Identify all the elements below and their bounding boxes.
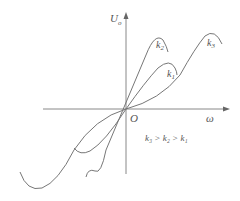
- x-axis-arrow-icon: [223, 107, 230, 112]
- characteristic-diagram: Uo ω O k2 k1 k3 k₃ > k₂ > k₁: [0, 0, 240, 201]
- x-axis-label: ω: [206, 112, 214, 124]
- relation-text: k₃ > k₂ > k₁: [145, 133, 188, 143]
- y-axis-arrow-icon: [124, 12, 129, 19]
- origin-label: O: [130, 112, 138, 124]
- y-axis-label: Uo: [110, 12, 122, 27]
- curve-k3: [20, 33, 222, 188]
- curve-label-k1: k1: [167, 68, 175, 81]
- curve-label-k3: k3: [207, 37, 215, 50]
